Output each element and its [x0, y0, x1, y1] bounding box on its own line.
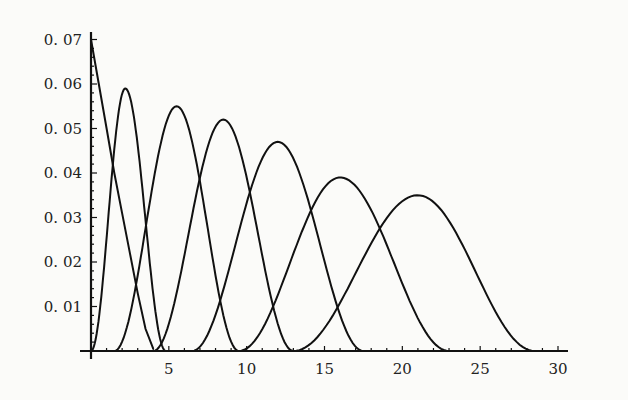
x-axis-tick-labels: 51015202530	[164, 360, 567, 378]
line-chart: 0. 010. 020. 030. 040. 050. 060. 07 5101…	[0, 0, 628, 400]
x-tick-label: 5	[164, 360, 174, 378]
x-tick-label: 10	[237, 360, 256, 378]
y-tick-label: 0. 01	[44, 298, 82, 316]
x-tick-label: 25	[471, 360, 490, 378]
x-tick-label: 15	[315, 360, 334, 378]
curve-3	[114, 106, 239, 351]
curve-5	[192, 142, 363, 351]
y-tick-label: 0. 07	[44, 31, 82, 49]
y-tick-label: 0. 06	[44, 75, 82, 93]
x-tick-label: 30	[548, 360, 567, 378]
y-tick-label: 0. 05	[44, 120, 82, 138]
y-tick-label: 0. 04	[44, 164, 82, 182]
y-axis-tick-labels: 0. 010. 020. 030. 040. 050. 060. 07	[44, 31, 82, 316]
curve-7	[293, 195, 534, 351]
curve-2	[91, 89, 166, 352]
curve-series-group	[91, 40, 535, 352]
y-tick-label: 0. 02	[44, 253, 82, 271]
x-tick-label: 20	[393, 360, 412, 378]
y-tick-label: 0. 03	[44, 209, 82, 227]
